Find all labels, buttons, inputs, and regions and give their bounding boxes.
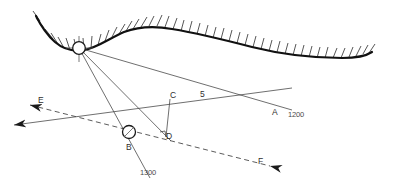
label-dimension-5: 5 bbox=[200, 89, 205, 99]
label-vector-f: F bbox=[258, 156, 263, 166]
ray-baseline-left-to-right bbox=[14, 88, 292, 125]
label-elevation-1200: 1200 bbox=[288, 110, 304, 119]
label-vector-e: E bbox=[38, 95, 44, 105]
sight-lines-group bbox=[14, 48, 292, 178]
label-point-d: D bbox=[166, 131, 172, 141]
survey-diagram-svg: A B C D E F 5 1200 1300 bbox=[0, 0, 398, 195]
survey-diagram-canvas: A B C D E F 5 1200 1300 bbox=[0, 0, 398, 195]
label-point-c: C bbox=[170, 90, 176, 100]
dashed-line-e-to-f bbox=[30, 105, 270, 166]
dashed-vector-group bbox=[30, 105, 270, 166]
terrain-surface-line bbox=[36, 16, 372, 58]
label-point-b: B bbox=[126, 142, 132, 152]
label-elevation-1300: 1300 bbox=[140, 168, 156, 177]
ray-top-station-to-a bbox=[79, 48, 292, 110]
station-top-circle[interactable] bbox=[73, 42, 86, 55]
station-b-group[interactable] bbox=[123, 126, 136, 139]
ray-top-station-to-b bbox=[79, 48, 150, 178]
label-point-a: A bbox=[272, 107, 278, 117]
